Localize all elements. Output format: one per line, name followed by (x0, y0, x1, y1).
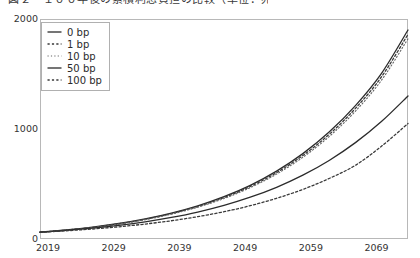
y-tick-label: 2000 (0, 14, 38, 24)
legend-item-label: 1 bp (67, 39, 89, 50)
chart-legend: 0 bp1 bp10 bp50 bp100 bp (41, 22, 110, 91)
legend-line-sample-icon (47, 27, 62, 37)
legend-item-label: 10 bp (67, 51, 96, 62)
legend-item: 100 bp (47, 74, 102, 86)
legend-line-sample-icon (47, 75, 62, 85)
legend-item: 0 bp (47, 26, 102, 38)
legend-line-sample-icon (47, 39, 62, 49)
legend-item: 10 bp (47, 50, 102, 62)
x-tick-label: 2029 (102, 243, 126, 253)
x-tick-label: 2049 (233, 243, 257, 253)
y-tick-label: 1000 (0, 124, 38, 134)
legend-item-label: 50 bp (67, 63, 96, 74)
legend-item: 50 bp (47, 62, 102, 74)
x-tick-label: 2019 (36, 243, 60, 253)
y-tick-label: 0 (0, 234, 38, 244)
legend-item: 1 bp (47, 38, 102, 50)
x-tick-label: 2039 (167, 243, 191, 253)
chart-figure: 図２ １００年後の累積利息負担の比較（単位：兆円） 010002000 2019… (0, 0, 420, 258)
legend-item-label: 100 bp (67, 75, 102, 86)
chart-title: 図２ １００年後の累積利息負担の比較（単位：兆円） (8, 0, 268, 6)
series-line-100-bp (40, 124, 408, 233)
y-axis-tick-labels: 010002000 (0, 0, 38, 258)
x-tick-label: 2059 (299, 243, 323, 253)
legend-line-sample-icon (47, 51, 62, 61)
legend-line-sample-icon (47, 63, 62, 73)
x-tick-label: 2069 (364, 243, 388, 253)
legend-item-label: 0 bp (67, 27, 89, 38)
